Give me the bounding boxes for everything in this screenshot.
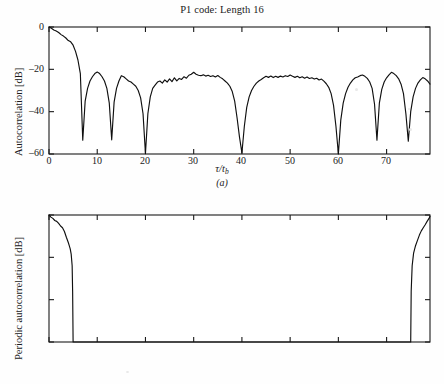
plot-a-xlabel: τ/tb — [0, 163, 444, 176]
scan-speck — [126, 371, 129, 373]
plot-b-svg — [0, 188, 444, 384]
subplot-b: Periodic autocorrelation [dB] 0 –20 –40 … — [0, 188, 444, 384]
plot-a-xlabel-main: τ/t — [215, 163, 225, 174]
plot-a-caption: (a) — [0, 177, 444, 188]
plot-a-ytick-20: –20 — [18, 63, 44, 74]
figure-container: P1 code: Length 16 Autocorrelation [dB] … — [0, 0, 444, 384]
scan-speck — [409, 128, 412, 131]
plot-b-ylabel: Periodic autocorrelation [dB] — [13, 237, 24, 360]
scan-speck — [355, 88, 358, 91]
scan-speck — [408, 108, 410, 110]
plot-a-ytick-0: 0 — [18, 21, 44, 32]
subplot-a: P1 code: Length 16 Autocorrelation [dB] … — [0, 0, 444, 196]
plot-a-xlabel-sub: b — [225, 167, 229, 176]
plot-a-ytick-40: –40 — [18, 105, 44, 116]
plot-b-frame — [49, 215, 430, 342]
